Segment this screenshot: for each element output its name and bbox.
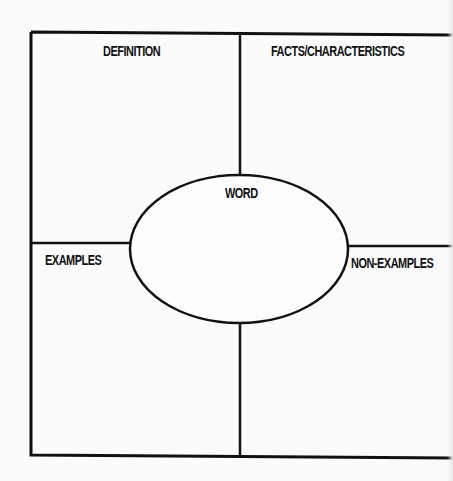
non-examples-label: NON-EXAMPLES <box>351 256 433 270</box>
facts-characteristics-label: FACTS/CHARACTERISTICS <box>271 44 404 58</box>
examples-label: EXAMPLES <box>45 253 101 267</box>
page-edge-shadow <box>447 0 453 481</box>
frayer-model-organizer: DEFINITION FACTS/CHARACTERISTICS EXAMPLE… <box>0 0 453 481</box>
word-label: WORD <box>225 186 258 200</box>
organizer-lines <box>0 0 453 481</box>
definition-label: DEFINITION <box>103 44 160 58</box>
